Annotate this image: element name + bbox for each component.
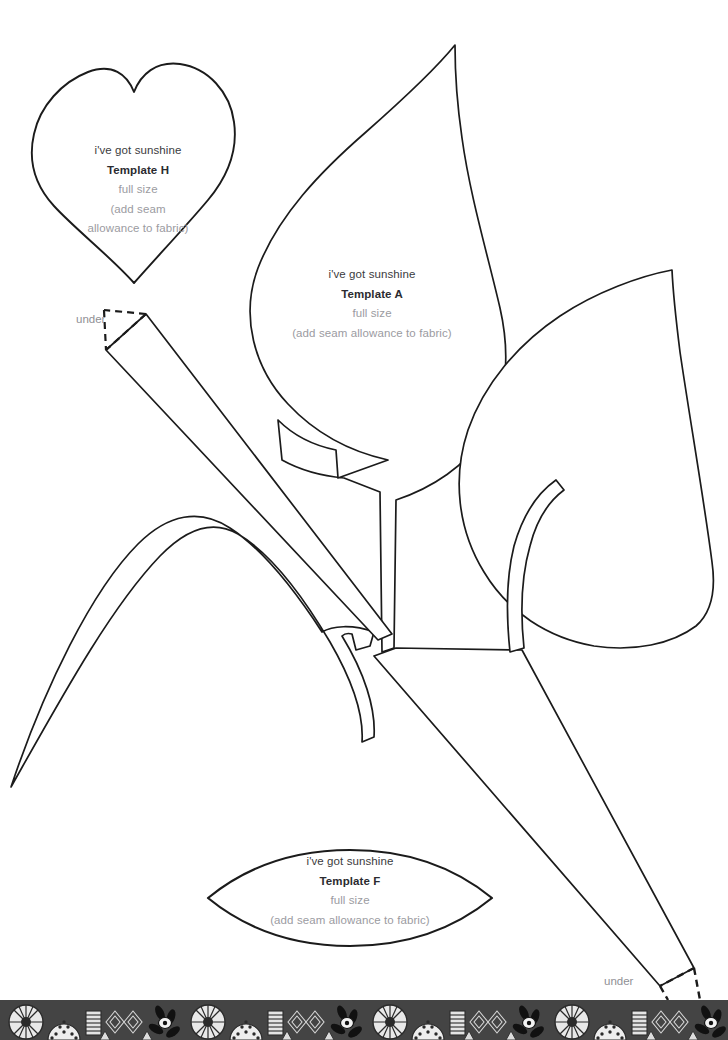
template-f-brand: i've got sunshine (208, 856, 492, 868)
template-h-name: Template H (53, 165, 223, 177)
template-h-note-line1: (add seam (53, 204, 223, 216)
template-h-label: i've got sunshine Template H full size (… (53, 145, 223, 235)
template-sheet: i've got sunshine Template H full size (… (0, 0, 728, 1040)
main-stem-dashed-side-a (694, 968, 700, 1000)
decorative-strip (0, 1000, 728, 1040)
template-a-outline (250, 45, 506, 652)
template-h-size: full size (53, 184, 223, 196)
main-stem-dashed-side-b (660, 986, 668, 1000)
upper-left-stem-dashed-side-a (104, 310, 146, 314)
template-h-brand: i've got sunshine (53, 145, 223, 157)
template-a-name: Template A (230, 289, 514, 301)
template-a-size: full size (230, 308, 514, 320)
template-f-note: (add seam allowance to fabric) (208, 915, 492, 927)
template-f-name: Template F (208, 876, 492, 888)
template-a-brand: i've got sunshine (230, 269, 514, 281)
template-f-size: full size (208, 895, 492, 907)
under-marker-upper-left: under (76, 313, 105, 325)
template-a-note: (add seam allowance to fabric) (230, 328, 514, 340)
template-h-note-line2: allowance to fabric) (53, 223, 223, 235)
template-a-label: i've got sunshine Template A full size (… (230, 269, 514, 339)
template-f-label: i've got sunshine Template F full size (… (208, 856, 492, 926)
under-marker-lower-right: under (604, 975, 633, 987)
